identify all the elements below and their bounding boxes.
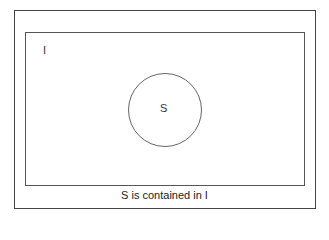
universe-label: I (43, 44, 46, 56)
diagram-caption: S is contained in I (0, 189, 329, 201)
subset-label: S (160, 102, 167, 114)
